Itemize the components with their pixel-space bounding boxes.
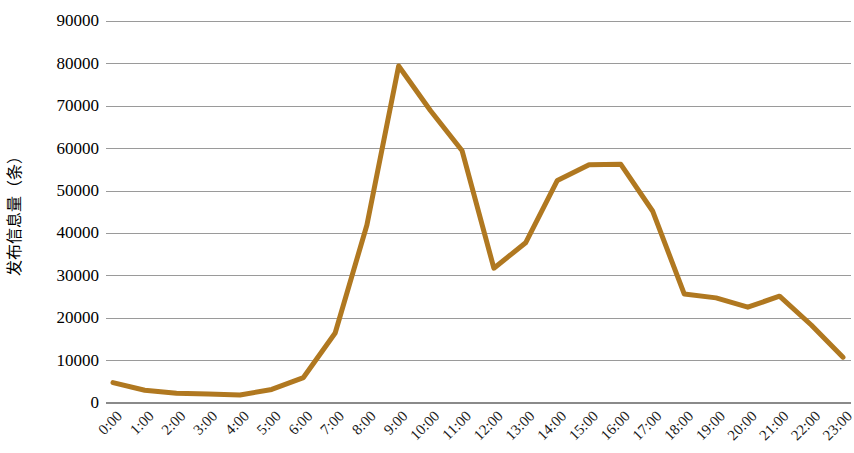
y-axis-tick-label: 80000: [57, 54, 100, 73]
x-axis-tick-label: 21:00: [756, 408, 791, 443]
line-chart: 0100002000030000400005000060000700008000…: [0, 0, 854, 453]
x-axis-tick-label: 5:00: [254, 408, 284, 438]
x-axis-tick-label: 2:00: [158, 408, 188, 438]
x-axis-tick-label: 4:00: [222, 408, 252, 438]
x-axis-tick-label: 9:00: [381, 408, 411, 438]
y-axis-tick-labels: 0100002000030000400005000060000700008000…: [57, 11, 100, 412]
x-axis-tick-label: 13:00: [502, 408, 537, 443]
x-axis-tick-label: 10:00: [407, 408, 442, 443]
x-axis-tick-label: 16:00: [597, 408, 632, 443]
x-axis-tick-label: 0:00: [95, 408, 125, 438]
y-axis-tick-label: 20000: [57, 308, 100, 327]
y-axis-tick-label: 40000: [57, 223, 100, 242]
y-axis-tick-label: 0: [91, 393, 100, 412]
data-series-line: [113, 66, 843, 395]
x-axis-tick-label: 12:00: [471, 408, 506, 443]
x-axis-tick-label: 3:00: [190, 408, 220, 438]
x-axis-tick-label: 19:00: [693, 408, 728, 443]
y-axis-tick-label: 70000: [57, 96, 100, 115]
y-axis-tick-label: 30000: [57, 266, 100, 285]
chart-canvas: 0100002000030000400005000060000700008000…: [0, 0, 854, 453]
x-axis-tick-label: 14:00: [534, 408, 569, 443]
x-axis-tick-label: 18:00: [661, 408, 696, 443]
y-axis-tick-label: 60000: [57, 139, 100, 158]
y-axis-tick-label: 90000: [57, 11, 100, 30]
x-axis-tick-label: 15:00: [566, 408, 601, 443]
x-axis-tick-label: 1:00: [127, 408, 157, 438]
x-axis-tick-label: 8:00: [349, 408, 379, 438]
y-axis-title: 发布信息量（条）: [6, 148, 23, 276]
x-axis-tick-labels: 0:001:002:003:004:005:006:007:008:009:00…: [95, 408, 854, 443]
x-axis-tick-label: 7:00: [317, 408, 347, 438]
x-axis-tick-label: 17:00: [629, 408, 664, 443]
y-axis-tick-label: 10000: [57, 351, 100, 370]
y-axis-tick-label: 50000: [57, 181, 100, 200]
x-axis-tick-label: 6:00: [285, 408, 315, 438]
x-axis-tick-label: 20:00: [724, 408, 759, 443]
x-axis-tick-label: 23:00: [820, 408, 854, 443]
x-axis-tick-label: 11:00: [439, 408, 474, 443]
x-axis-tick-label: 22:00: [788, 408, 823, 443]
